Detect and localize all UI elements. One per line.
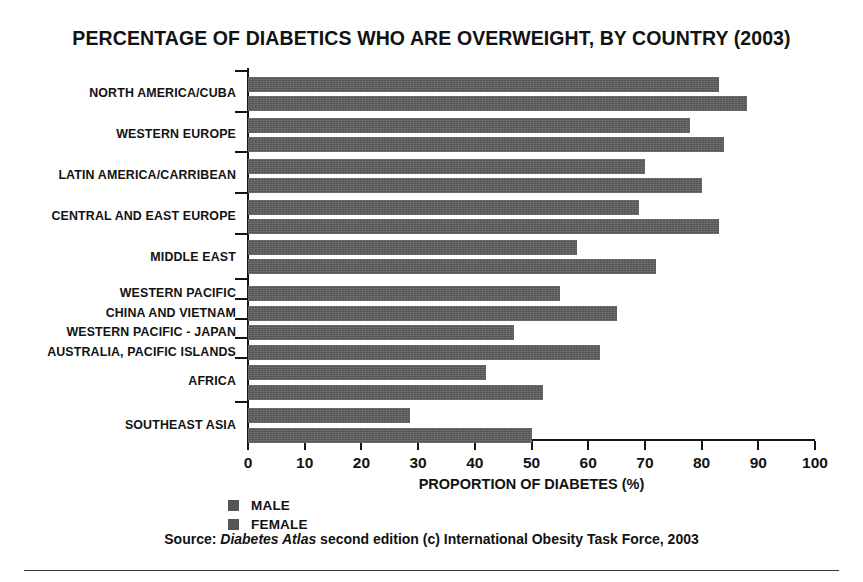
chart-title: PERCENTAGE OF DIABETICS WHO ARE OVERWEIG… bbox=[0, 27, 863, 50]
bar bbox=[248, 77, 719, 92]
y-axis-category-label: WESTERN PACIFIC - JAPAN bbox=[66, 325, 236, 339]
y-axis-category-label: CENTRAL AND EAST EUROPE bbox=[51, 209, 236, 223]
bar bbox=[248, 385, 543, 400]
x-axis-tick bbox=[757, 441, 759, 450]
bar bbox=[248, 137, 724, 152]
bar bbox=[248, 365, 486, 380]
bar bbox=[248, 200, 639, 215]
x-axis-tick-label: 20 bbox=[353, 454, 370, 472]
y-axis-tick bbox=[235, 151, 248, 153]
bar bbox=[248, 178, 702, 193]
x-axis-tick bbox=[587, 441, 589, 450]
y-axis-tick bbox=[235, 337, 248, 339]
x-axis-tick-label: 0 bbox=[244, 454, 253, 472]
legend-swatch bbox=[228, 519, 239, 530]
source-suffix: second edition (c) International Obesity… bbox=[316, 531, 699, 547]
x-axis-tick-label: 30 bbox=[409, 454, 426, 472]
y-axis-category-label: WESTERN EUROPE bbox=[116, 127, 236, 141]
x-axis-tick-label: 90 bbox=[750, 454, 767, 472]
bar bbox=[248, 306, 617, 321]
legend-item: MALE bbox=[228, 497, 308, 514]
y-axis-tick bbox=[235, 401, 248, 403]
bar bbox=[248, 428, 532, 443]
y-axis-category-label: LATIN AMERICA/CARRIBEAN bbox=[58, 168, 236, 182]
x-axis-tick-label: 50 bbox=[523, 454, 540, 472]
bar bbox=[248, 219, 719, 234]
legend-label: FEMALE bbox=[251, 517, 308, 532]
x-axis-tick bbox=[701, 441, 703, 450]
y-axis-tick bbox=[235, 318, 248, 320]
x-axis-tick-label: 60 bbox=[580, 454, 597, 472]
y-axis-category-label: WESTERN PACIFIC bbox=[120, 286, 236, 300]
chart-container: PERCENTAGE OF DIABETICS WHO ARE OVERWEIG… bbox=[0, 0, 863, 582]
y-axis-tick bbox=[235, 111, 248, 113]
bar bbox=[248, 159, 645, 174]
x-axis-tick-label: 70 bbox=[636, 454, 653, 472]
legend-label: MALE bbox=[251, 498, 290, 513]
y-axis-category-label: AUSTRALIA, PACIFIC ISLANDS bbox=[47, 345, 236, 359]
y-axis-category-label: CHINA AND VIETNAM bbox=[106, 306, 236, 320]
x-axis-tick bbox=[644, 441, 646, 450]
y-axis-tick bbox=[235, 233, 248, 235]
x-axis-tick-label: 10 bbox=[296, 454, 313, 472]
x-axis-tick-label: 80 bbox=[693, 454, 710, 472]
bar bbox=[248, 118, 690, 133]
bar bbox=[248, 259, 656, 274]
y-axis-category-labels: NORTH AMERICA/CUBAWESTERN EUROPELATIN AM… bbox=[0, 68, 240, 440]
y-axis-category-label: SOUTHEAST ASIA bbox=[125, 418, 236, 432]
bar bbox=[248, 325, 514, 340]
y-axis-tick bbox=[235, 70, 248, 72]
y-axis-tick bbox=[235, 192, 248, 194]
source-title: Diabetes Atlas bbox=[220, 531, 316, 547]
chart-legend: MALEFEMALE bbox=[228, 497, 308, 535]
y-axis-tick bbox=[235, 357, 248, 359]
y-axis-tick bbox=[235, 278, 248, 280]
source-note: Source: Diabetes Atlas second edition (c… bbox=[0, 531, 863, 547]
bar bbox=[248, 345, 600, 360]
x-axis-title: PROPORTION OF DIABETES (%) bbox=[248, 476, 815, 492]
bar bbox=[248, 408, 410, 423]
bar bbox=[248, 96, 747, 111]
bar bbox=[248, 240, 577, 255]
y-axis-tick bbox=[235, 298, 248, 300]
plot-area: 0102030405060708090100 bbox=[248, 68, 815, 440]
y-axis-category-label: NORTH AMERICA/CUBA bbox=[89, 86, 236, 100]
x-axis-tick-label: 100 bbox=[802, 454, 828, 472]
x-axis-tick bbox=[814, 441, 816, 450]
legend-swatch bbox=[228, 500, 239, 511]
bottom-divider bbox=[24, 570, 839, 571]
x-axis-tick-label: 40 bbox=[466, 454, 483, 472]
bar bbox=[248, 286, 560, 301]
source-prefix: Source: bbox=[164, 531, 220, 547]
y-axis-category-label: AFRICA bbox=[188, 374, 236, 388]
y-axis-category-label: MIDDLE EAST bbox=[150, 250, 236, 264]
